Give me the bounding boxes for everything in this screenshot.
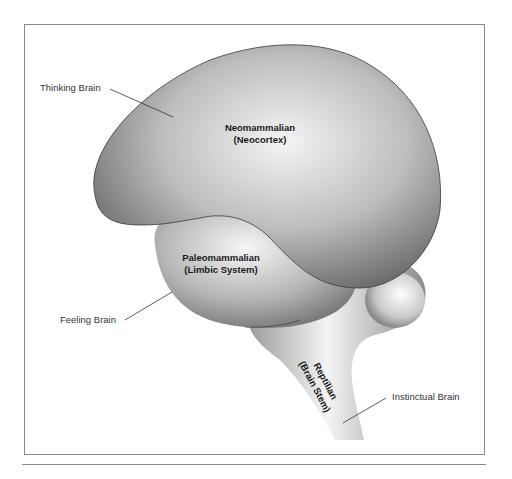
callout-instinctual-brain: Instinctual Brain [392,391,460,402]
neocortex-name: Neomammalian [222,122,298,134]
callout-thinking-brain: Thinking Brain [40,82,101,93]
neocortex-subname: (Neocortex) [222,134,298,146]
brain-illustration [0,0,512,479]
limbic-label: Paleomammalian (Limbic System) [176,252,266,276]
neocortex-label: Neomammalian (Neocortex) [222,122,298,146]
limbic-subname: (Limbic System) [176,264,266,276]
callout-line-feeling [125,292,172,320]
callout-feeling-brain: Feeling Brain [60,314,116,325]
limbic-name: Paleomammalian [176,252,266,264]
